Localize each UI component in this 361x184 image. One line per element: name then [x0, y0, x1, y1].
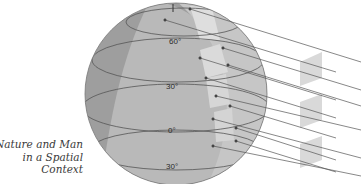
cross-section-2 — [300, 94, 322, 128]
sunlit-patch — [214, 108, 234, 142]
latitude-label-30n: 30° — [166, 82, 178, 91]
caption-line-3: Context — [0, 163, 83, 176]
caption-line-1: Nature and Man — [0, 138, 83, 151]
cross-section-1 — [300, 52, 322, 86]
latitude-label-30s: 30° — [166, 162, 178, 171]
latitude-label-0: 0° — [168, 126, 176, 135]
latitude-label-60: 60° — [169, 37, 181, 46]
figure-caption: Nature and Man in a Spatial Context — [0, 138, 83, 176]
caption-line-2: in a Spatial — [0, 151, 83, 164]
globe — [82, 0, 270, 184]
